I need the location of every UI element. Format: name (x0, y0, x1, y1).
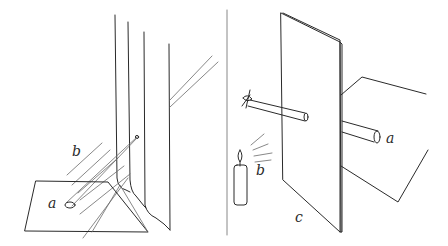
label-left-b: b (72, 144, 81, 158)
tube-front-bottom (248, 106, 305, 121)
diagram-drawing (0, 0, 448, 246)
floor-sheet (25, 181, 148, 232)
candle-ray-2 (253, 144, 268, 150)
screen-board-edge (283, 13, 342, 232)
shadow-triangle (92, 185, 148, 232)
label-left-a: a (48, 196, 56, 210)
back-sheet-lower (341, 150, 428, 202)
back-sheet (341, 77, 426, 95)
curtain-fold-3 (144, 32, 170, 230)
beam-line-2 (72, 138, 137, 206)
tube-back-top (342, 121, 378, 131)
incoming-ray-2 (170, 62, 218, 107)
candle-body (234, 165, 247, 205)
tube-front-end (304, 113, 308, 121)
screen-board-front (281, 13, 340, 232)
eye-icon (242, 90, 252, 108)
candle-ray-1 (251, 134, 264, 145)
tube-back-bottom (342, 132, 374, 142)
candle-ray-3 (254, 153, 272, 156)
curtain-fold-4 (169, 44, 170, 230)
right-panel (234, 13, 428, 232)
label-right-b: b (256, 163, 265, 177)
tube-front-top (250, 100, 305, 113)
tube-back-end (374, 131, 380, 143)
incoming-ray-1 (170, 56, 212, 100)
label-right-a: a (386, 131, 394, 145)
label-right-c: c (295, 210, 303, 224)
curtain-fold-2 (128, 22, 146, 208)
candle-flame-icon (238, 150, 242, 166)
